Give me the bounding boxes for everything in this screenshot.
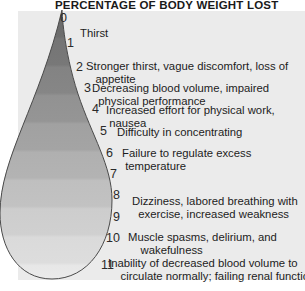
scale-number-9: 9 [113,211,120,224]
symptom-renal-failure: Inability of decreased blood volume to c… [108,257,305,282]
dehydration-symptom-chart: PERCENTAGE OF BODY WEIGHT LOST [0,0,305,291]
scale-number-1: 1 [67,37,74,50]
scale-number-10: 10 [106,232,120,245]
scale-number-6: 6 [106,147,113,160]
scale-number-2: 2 [76,61,83,74]
symptom-temperature: Failure to regulate excess temperature [122,147,251,172]
symptom-dizziness: Dizziness, labored breathing with exerci… [132,195,298,220]
symptom-thirst: Thirst [80,27,108,40]
symptom-muscle-spasms: Muscle spasms, delirium, and wakefulness [128,231,277,256]
scale-number-8: 8 [113,189,120,202]
scale-number-0: 0 [60,12,67,25]
symptom-concentrating: Difficulty in concentrating [117,126,242,139]
scale-number-7: 7 [110,168,117,181]
